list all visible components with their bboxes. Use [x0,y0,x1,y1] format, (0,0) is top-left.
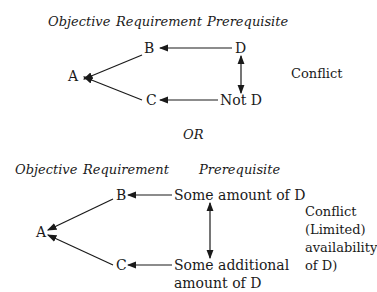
header-requirement-bottom: Requirement [83,163,169,177]
node-some-amount-of-d: Some amount of D [174,188,305,202]
conflict-label-bottom-3: availability [305,241,377,255]
header-objective: Objective [48,15,110,29]
conflict-label-bottom-1: Conflict [305,205,356,219]
or-separator: OR [183,128,203,142]
node-amount-of-d: amount of D [174,276,261,290]
arrow-b-to-a [84,55,142,79]
node-b: B [144,41,154,55]
header-requirement: Requirement [116,15,202,29]
node-c-bottom: C [116,258,127,272]
node-a-bottom: A [36,225,46,239]
arrow-c-to-a-bottom [48,235,113,265]
header-prerequisite: Prerequisite [207,15,288,29]
conflict-label-bottom-2: (Limited) [305,223,366,237]
conflict-label: Conflict [291,67,342,81]
header-objective-bottom: Objective [15,163,77,177]
arrow-c-to-a [84,77,142,100]
conflict-label-bottom-4: of D) [305,259,337,273]
header-prerequisite-bottom: Prerequisite [199,163,280,177]
arrow-b-to-a-bottom [48,199,113,230]
node-not-d: Not D [220,93,262,107]
node-b-bottom: B [116,188,126,202]
node-some-additional: Some additional [174,258,289,272]
node-c: C [146,93,157,107]
node-a: A [68,69,78,83]
node-d: D [235,41,246,55]
